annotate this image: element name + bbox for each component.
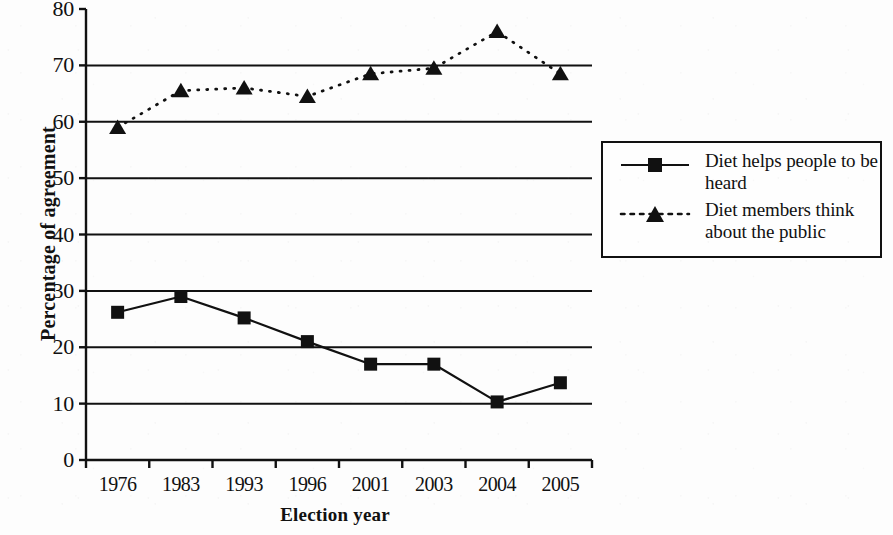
data-point-marker [111,306,124,319]
data-point-marker [172,83,189,98]
data-point-marker [552,66,569,81]
data-point-marker [299,88,316,103]
data-point-marker [238,311,251,324]
legend-marker-triangle-dotted [619,203,691,225]
data-point-marker [364,358,377,371]
data-point-marker [301,335,314,348]
series-line-0 [118,297,561,402]
data-point-marker [427,358,440,371]
series-line-1 [118,32,561,128]
legend-entry-1: Diet members think about the public [603,203,880,251]
data-point-marker [491,395,504,408]
legend-label-1: Diet members think about the public [705,199,880,243]
legend-marker-square-solid [619,154,691,176]
legend-label-0: Diet helps people to be heard [705,150,880,194]
data-point-marker [362,66,379,81]
plot-area [0,0,893,535]
chart-legend: Diet helps people to be heard Diet membe… [601,141,882,258]
data-series-layer [109,24,569,409]
data-point-marker [554,376,567,389]
data-point-marker [489,24,506,39]
data-point-marker [236,80,253,95]
data-point-marker [174,290,187,303]
chart-figure: Percentage of agreement Election year 80… [0,0,893,535]
legend-entry-0: Diet helps people to be heard [603,154,880,202]
axis-lines [79,9,592,468]
